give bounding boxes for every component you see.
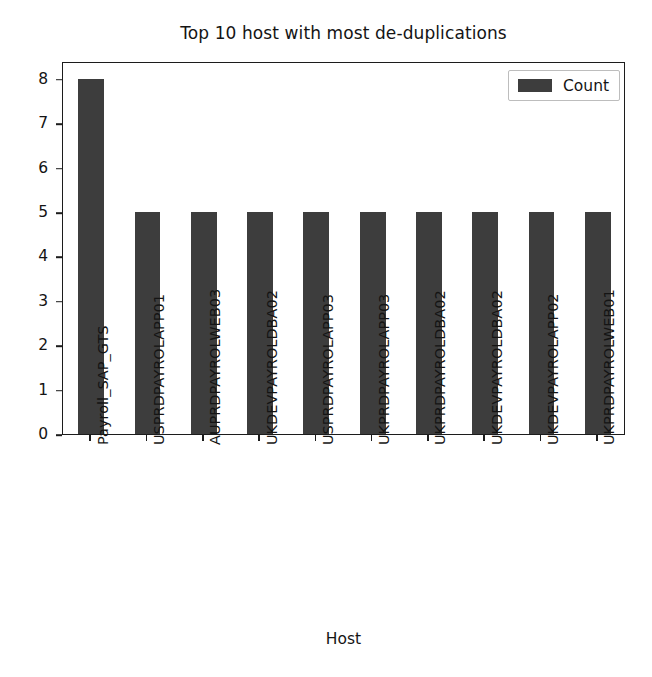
x-tick-label-UKPRDPAYROLDBA02: UKPRDPAYROLDBA02 [433, 290, 448, 445]
x-tick-mark-UKPRDPAYROLDBA02 [427, 435, 429, 441]
y-tick-label-6: 6 [38, 161, 48, 177]
y-tick-label-3: 3 [38, 294, 48, 310]
legend-label-count: Count [563, 78, 609, 94]
x-tick-label-USPRDPAYROLAPP03: USPRDPAYROLAPP03 [321, 294, 336, 445]
x-tick-label-Payroll_SAP_GTS: Payroll_SAP_GTS [96, 325, 111, 445]
x-tick-mark-UKDEVPAYROLDBA02 [258, 435, 260, 441]
x-tick-label-USPRDPAYROLAPP01: USPRDPAYROLAPP01 [152, 294, 167, 445]
x-tick-mark-USPRDPAYROLAPP01 [146, 435, 148, 441]
y-tick-label-4: 4 [38, 250, 48, 266]
y-tick-label-7: 7 [38, 116, 48, 132]
x-tick-mark-UKPRDPAYROLAPP03 [371, 435, 373, 441]
x-tick-label-UKDEVPAYROLDBA02: UKDEVPAYROLDBA02 [490, 290, 505, 445]
y-tick-label-1: 1 [38, 383, 48, 399]
x-tick-mark-UKPRDPAYROLWEB01 [596, 435, 598, 441]
chart-figure: Top 10 host with most de-duplications 01… [0, 0, 652, 677]
x-tick-label-AUPRDPAYROLWEB03: AUPRDPAYROLWEB03 [208, 289, 223, 445]
x-tick-label-UKPRDPAYROLWEB01: UKPRDPAYROLWEB01 [602, 289, 617, 445]
x-tick-mark-UKDEVPAYROLAPP02 [540, 435, 542, 441]
x-tick-mark-Payroll_SAP_GTS [89, 435, 91, 441]
x-tick-label-UKPRDPAYROLAPP03: UKPRDPAYROLAPP03 [377, 294, 392, 445]
y-tick-label-8: 8 [38, 72, 48, 88]
plot-area [62, 62, 625, 435]
y-tick-label-0: 0 [38, 427, 48, 443]
y-tick-label-2: 2 [38, 338, 48, 354]
y-tick-label-5: 5 [38, 205, 48, 221]
x-tick-mark-AUPRDPAYROLWEB03 [202, 435, 204, 441]
chart-title: Top 10 host with most de-duplications [62, 22, 625, 44]
legend-swatch-count [518, 79, 552, 92]
bars-container [63, 63, 624, 434]
x-tick-label-UKDEVPAYROLAPP02: UKDEVPAYROLAPP02 [546, 293, 561, 445]
x-tick-mark-UKDEVPAYROLDBA02 [483, 435, 485, 441]
x-axis-title: Host [62, 630, 625, 648]
chart-legend: Count [508, 70, 620, 101]
y-axis: 012345678 [0, 62, 62, 435]
x-tick-mark-USPRDPAYROLAPP03 [315, 435, 317, 441]
x-tick-label-UKDEVPAYROLDBA02: UKDEVPAYROLDBA02 [265, 290, 280, 445]
